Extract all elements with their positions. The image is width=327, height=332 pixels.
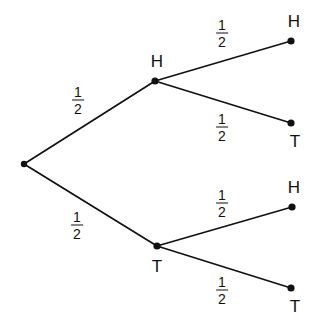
fraction-denominator: 2 bbox=[216, 34, 228, 49]
edge-probability-t1-tt: 12 bbox=[216, 275, 228, 306]
edge-probability-t1-th: 12 bbox=[216, 188, 228, 219]
node-label-hh: H bbox=[288, 13, 300, 30]
fraction-numerator: 1 bbox=[216, 112, 228, 128]
tree-node-th bbox=[288, 203, 295, 210]
fraction-numerator: 1 bbox=[71, 210, 83, 226]
tree-node-hh bbox=[287, 37, 294, 44]
edge-probability-h1-hh: 12 bbox=[216, 18, 228, 49]
tree-edges-canvas bbox=[0, 0, 327, 332]
fraction-denominator: 2 bbox=[72, 101, 84, 116]
probability-tree-diagram: 121212121212HTHTHT bbox=[0, 0, 327, 332]
edge-layer bbox=[24, 41, 292, 288]
edge-probability-root-h1: 12 bbox=[72, 85, 84, 116]
tree-node-root bbox=[21, 161, 27, 167]
fraction-denominator: 2 bbox=[216, 204, 228, 219]
node-label-tt: T bbox=[290, 298, 300, 315]
edge-probability-root-t1: 12 bbox=[71, 210, 83, 241]
tree-node-ht bbox=[287, 119, 294, 126]
tree-node-tt bbox=[287, 284, 294, 291]
fraction-numerator: 1 bbox=[216, 188, 228, 204]
fraction-denominator: 2 bbox=[216, 128, 228, 143]
node-label-t1: T bbox=[152, 258, 162, 275]
tree-edge-root-h1 bbox=[24, 81, 155, 164]
tree-node-h1 bbox=[151, 77, 158, 84]
fraction-numerator: 1 bbox=[216, 275, 228, 291]
tree-edge-root-t1 bbox=[24, 164, 157, 246]
fraction-denominator: 2 bbox=[216, 291, 228, 306]
node-layer bbox=[21, 37, 296, 291]
fraction-numerator: 1 bbox=[216, 18, 228, 34]
node-label-ht: T bbox=[290, 133, 300, 150]
fraction-denominator: 2 bbox=[71, 226, 83, 241]
node-label-th: H bbox=[288, 179, 300, 196]
tree-node-t1 bbox=[153, 242, 160, 249]
fraction-numerator: 1 bbox=[72, 85, 84, 101]
edge-probability-h1-ht: 12 bbox=[216, 112, 228, 143]
node-label-h1: H bbox=[151, 53, 163, 70]
